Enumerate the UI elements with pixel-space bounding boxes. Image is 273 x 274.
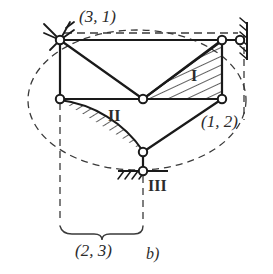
label-pair-1-2: (1, 2) xyxy=(201,113,238,130)
figure-caption: b) xyxy=(146,246,159,262)
joint-top-right xyxy=(218,36,226,44)
joint-wall-right xyxy=(236,36,244,44)
joint-mid-right xyxy=(218,95,226,103)
joint-ground xyxy=(139,167,147,175)
joint-top-left xyxy=(56,36,64,44)
label-region-III: III xyxy=(148,178,167,194)
joint-mid-center xyxy=(139,95,147,103)
joint-mid-left xyxy=(56,95,64,103)
joint-bottom xyxy=(139,148,147,156)
region-II-crescent xyxy=(60,100,143,151)
figure-canvas xyxy=(0,0,273,274)
label-region-I: I xyxy=(191,68,197,84)
label-pair-3-1: (3, 1) xyxy=(79,8,116,25)
mechanism-figure: (3, 1) I II III (1, 2) (2, 3) b) xyxy=(0,0,273,274)
label-pair-2-3: (2, 3) xyxy=(75,242,112,259)
label-region-II: II xyxy=(108,108,120,124)
member-diagonal-left xyxy=(60,40,143,99)
dimension-brace-bottom xyxy=(60,226,143,240)
